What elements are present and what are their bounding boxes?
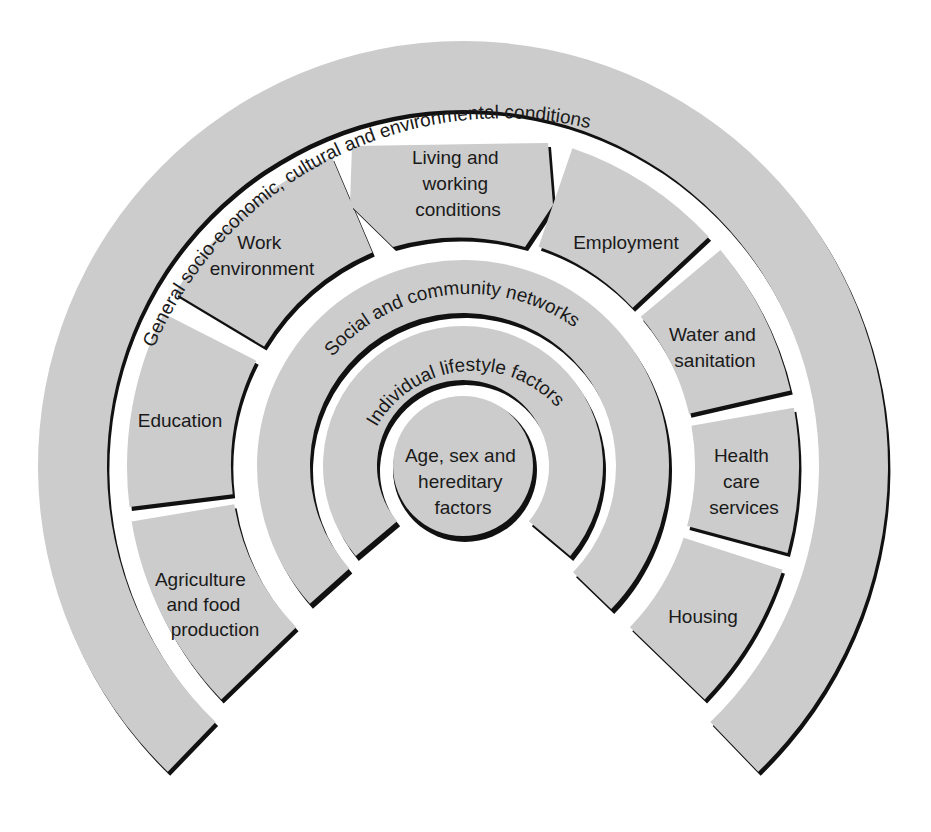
- sector-label-agriculture: Agriculture and food production: [155, 569, 259, 640]
- determinants-of-health-diagram: General socio-economic, cultural and env…: [0, 0, 931, 832]
- sector-label-living-working: Living and working conditions: [412, 147, 504, 220]
- sector-label-education: Education: [138, 410, 223, 431]
- sector-label-employment: Employment: [573, 232, 679, 253]
- sector-label-housing: Housing: [668, 606, 738, 627]
